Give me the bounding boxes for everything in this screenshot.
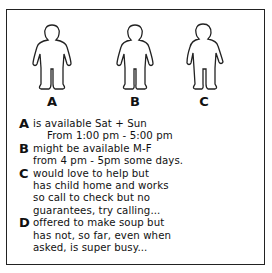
availability-notes: A is available Sat + Sun From 1:00 pm - … <box>19 118 259 254</box>
figure-label-a: A <box>29 94 75 109</box>
note-letter: B <box>19 143 33 168</box>
person-outline-icon-b <box>112 22 158 92</box>
note-line: so call to check but no <box>33 192 259 204</box>
note-letter: C <box>19 168 33 218</box>
person-outline-icon-c <box>181 22 227 92</box>
figure-label-c: C <box>181 94 227 109</box>
note-a: A is available Sat + Sun From 1:00 pm - … <box>19 118 259 143</box>
note-letter: D <box>19 217 33 254</box>
note-d: D offered to make soup but has not, so f… <box>19 217 259 254</box>
note-c: C would love to help but has child home … <box>19 168 259 218</box>
note-line: offered to make soup but <box>33 217 259 229</box>
note-b: B might be available M-F from 4 pm - 5pm… <box>19 143 259 168</box>
note-line: has not, so far, even when <box>33 230 259 242</box>
note-line: from 4 pm - 5pm some days. <box>33 155 259 167</box>
person-outline-icon-a <box>29 22 75 92</box>
note-line: is available Sat + Sun <box>33 118 259 130</box>
note-line: guarantees, try calling... <box>33 205 259 217</box>
figure-label-b: B <box>112 94 158 109</box>
note-line: would love to help but <box>33 168 259 180</box>
note-card-frame: A B C A is available Sat + Sun From 1:00… <box>6 9 265 265</box>
note-line: might be available M-F <box>33 143 259 155</box>
note-line: From 1:00 pm - 5:00 pm <box>33 130 259 142</box>
note-letter: A <box>19 118 33 143</box>
note-line: has child home and works <box>33 180 259 192</box>
note-line: asked, is super busy... <box>33 242 259 254</box>
